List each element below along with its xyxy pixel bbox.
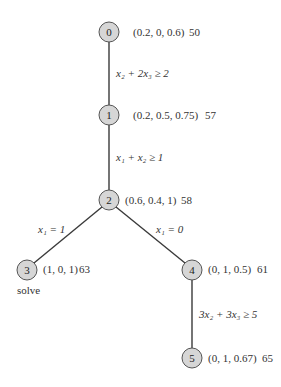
node-5-solution: (0, 1, 0.67) [208,352,257,365]
node-0-solution: (0.2, 0, 0.6) [133,26,185,39]
node-id: 4 [189,264,195,276]
edge-label-2-4: x₁ = 0 [155,223,184,235]
edge-label-4-5: 3x₂ + 3x₃ ≥ 5 [198,308,258,320]
node-1: 1 [99,105,119,125]
edge-label-0-1: x₂ + 2x₃ ≥ 2 [115,67,169,79]
node-4-value: 61 [257,263,268,275]
edge-2-3 [34,207,102,263]
edge-label-1-2: x₁ + x₂ ≥ 1 [115,151,163,163]
node-4-solution: (0, 1, 0.5) [208,263,251,276]
node-id: 3 [24,264,30,276]
node-3: 3 [17,260,37,280]
node-0: 0 [99,22,119,42]
node-0-value: 50 [189,26,201,38]
node-3-solution: (1, 0, 1) [43,263,78,276]
node-2: 2 [99,190,119,210]
node-3-value: 63 [79,263,91,275]
node-4: 4 [182,260,202,280]
node-id: 5 [189,352,195,364]
node-5: 5 [182,348,202,368]
edge-label-2-3: x₁ = 1 [37,223,65,235]
branch-and-bound-tree: x₂ + 2x₃ ≥ 2 x₁ + x₂ ≥ 1 x₁ = 1 x₁ = 0 3… [0,0,281,387]
node-id: 1 [106,109,112,121]
node-5-value: 65 [262,352,274,364]
node-2-value: 58 [181,194,193,206]
node-2-solution: (0.6, 0.4, 1) [125,194,177,207]
node-id: 2 [106,194,112,206]
node-1-solution: (0.2, 0.5, 0.75) [133,109,198,122]
node-3-note: solve [17,284,40,296]
edge-2-4 [116,207,185,263]
node-id: 0 [106,26,112,38]
node-1-value: 57 [205,109,217,121]
